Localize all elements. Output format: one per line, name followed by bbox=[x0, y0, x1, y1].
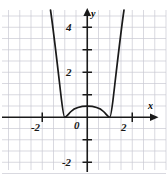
x-tick-label-minus2: -2 bbox=[31, 122, 40, 133]
coordinate-plane bbox=[0, 0, 167, 176]
y-axis-label: y bbox=[91, 9, 95, 19]
x-axis bbox=[2, 113, 159, 121]
grid-lines bbox=[2, 10, 166, 174]
y-tick-label-2: 2 bbox=[66, 67, 71, 78]
y-tick-label-minus2: -2 bbox=[62, 157, 71, 168]
origin-label: 0 bbox=[74, 120, 79, 131]
y-axis bbox=[83, 8, 91, 172]
x-axis-label: x bbox=[148, 101, 153, 111]
x-tick-label-2: 2 bbox=[121, 122, 126, 133]
graph-figure: -2 2 4 2 -2 0 x y bbox=[0, 0, 167, 176]
y-tick-label-4: 4 bbox=[66, 22, 71, 33]
